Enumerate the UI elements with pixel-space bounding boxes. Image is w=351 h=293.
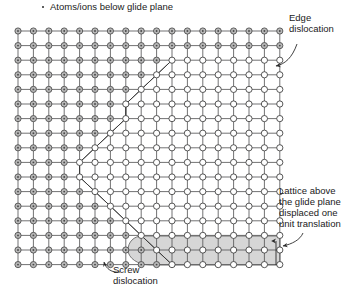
atom-above-glide-plane bbox=[261, 218, 267, 224]
atom-above-glide-plane bbox=[154, 72, 160, 78]
atom-below-glide-plane bbox=[154, 57, 160, 63]
atom-below-glide-plane bbox=[15, 57, 21, 63]
atom-above-glide-plane bbox=[169, 159, 175, 165]
atom-below-glide-plane bbox=[46, 43, 52, 49]
atom-below-glide-plane bbox=[77, 247, 83, 253]
atom-above-glide-plane bbox=[261, 130, 267, 136]
atom-below-glide-plane bbox=[46, 247, 52, 253]
atom-above-glide-plane bbox=[215, 218, 221, 224]
atom-above-glide-plane bbox=[231, 116, 237, 122]
atom-above-glide-plane bbox=[154, 203, 160, 209]
atom-above-glide-plane bbox=[246, 189, 252, 195]
atom-below-glide-plane bbox=[77, 145, 83, 151]
atom-below-glide-plane bbox=[30, 145, 36, 151]
atom-below-glide-plane bbox=[92, 43, 98, 49]
atom-below-glide-plane bbox=[30, 116, 36, 122]
atom-below-glide-plane bbox=[107, 72, 113, 78]
atom-above-glide-plane bbox=[277, 86, 283, 92]
atom-above-glide-plane bbox=[184, 116, 190, 122]
atom-below-glide-plane bbox=[92, 218, 98, 224]
atom-below-glide-plane bbox=[107, 247, 113, 253]
atom-above-glide-plane bbox=[107, 203, 113, 209]
atom-above-glide-plane bbox=[215, 189, 221, 195]
atom-above-glide-plane bbox=[184, 159, 190, 165]
atom-below-glide-plane bbox=[107, 28, 113, 34]
atom-below-glide-plane bbox=[46, 116, 52, 122]
atom-above-glide-plane bbox=[231, 159, 237, 165]
atom-above-glide-plane bbox=[277, 159, 283, 165]
atom-below-glide-plane bbox=[61, 72, 67, 78]
atom-below-glide-plane bbox=[46, 174, 52, 180]
atom-above-glide-plane bbox=[169, 247, 175, 253]
atom-above-glide-plane bbox=[215, 145, 221, 151]
atom-above-glide-plane bbox=[215, 101, 221, 107]
atom-above-glide-plane bbox=[261, 174, 267, 180]
atom-above-glide-plane bbox=[154, 145, 160, 151]
atom-above-glide-plane bbox=[231, 232, 237, 238]
atom-above-glide-plane bbox=[169, 86, 175, 92]
atom-above-glide-plane bbox=[231, 247, 237, 253]
atom-below-glide-plane bbox=[15, 203, 21, 209]
atom-below-glide-plane bbox=[246, 43, 252, 49]
atom-above-glide-plane bbox=[154, 116, 160, 122]
lattice-diagram-svg bbox=[0, 0, 351, 293]
atom-below-glide-plane bbox=[92, 130, 98, 136]
atom-below-glide-plane bbox=[138, 43, 144, 49]
atom-above-glide-plane bbox=[184, 72, 190, 78]
atom-above-glide-plane bbox=[138, 130, 144, 136]
atom-above-glide-plane bbox=[184, 232, 190, 238]
atom-below-glide-plane bbox=[169, 43, 175, 49]
atom-above-glide-plane bbox=[154, 130, 160, 136]
atom-below-glide-plane bbox=[30, 28, 36, 34]
atom-below-glide-plane bbox=[30, 130, 36, 136]
atom-above-glide-plane bbox=[261, 72, 267, 78]
atom-above-glide-plane bbox=[138, 174, 144, 180]
atom-above-glide-plane bbox=[184, 262, 190, 268]
atom-above-glide-plane bbox=[261, 189, 267, 195]
lattice-translation-arrow bbox=[283, 233, 303, 246]
atom-above-glide-plane bbox=[107, 159, 113, 165]
atom-below-glide-plane bbox=[77, 218, 83, 224]
atom-below-glide-plane bbox=[261, 28, 267, 34]
atom-below-glide-plane bbox=[61, 101, 67, 107]
atom-below-glide-plane bbox=[92, 28, 98, 34]
atom-below-glide-plane bbox=[107, 86, 113, 92]
atom-above-glide-plane bbox=[261, 86, 267, 92]
atom-above-glide-plane bbox=[215, 130, 221, 136]
atom-above-glide-plane bbox=[200, 232, 206, 238]
atom-below-glide-plane bbox=[46, 72, 52, 78]
atom-below-glide-plane bbox=[107, 43, 113, 49]
atom-below-glide-plane bbox=[46, 262, 52, 268]
atom-above-glide-plane bbox=[154, 86, 160, 92]
atom-below-glide-plane bbox=[61, 145, 67, 151]
caption-atoms-below-glide-plane: Atoms/ions below glide plane bbox=[50, 1, 173, 12]
atom-below-glide-plane bbox=[138, 57, 144, 63]
atom-below-glide-plane bbox=[92, 57, 98, 63]
atom-above-glide-plane bbox=[261, 145, 267, 151]
atom-below-glide-plane bbox=[277, 43, 283, 49]
atom-above-glide-plane bbox=[169, 174, 175, 180]
atom-above-glide-plane bbox=[200, 218, 206, 224]
atom-below-glide-plane bbox=[77, 28, 83, 34]
atom-above-glide-plane bbox=[215, 203, 221, 209]
atom-above-glide-plane bbox=[184, 218, 190, 224]
dislocation-loop-diagram: Atoms/ions below glide plane Edge disloc… bbox=[0, 0, 351, 293]
atom-above-glide-plane bbox=[200, 130, 206, 136]
atom-above-glide-plane bbox=[184, 86, 190, 92]
atom-above-glide-plane bbox=[184, 247, 190, 253]
atom-below-glide-plane bbox=[46, 86, 52, 92]
atom-above-glide-plane bbox=[231, 72, 237, 78]
atom-above-glide-plane bbox=[184, 145, 190, 151]
atom-above-glide-plane bbox=[231, 189, 237, 195]
atom-below-glide-plane bbox=[107, 218, 113, 224]
atom-above-glide-plane bbox=[169, 101, 175, 107]
atom-below-glide-plane bbox=[61, 174, 67, 180]
atom-below-glide-plane bbox=[30, 159, 36, 165]
atom-above-glide-plane bbox=[200, 57, 206, 63]
atom-above-glide-plane bbox=[246, 262, 252, 268]
atom-above-glide-plane bbox=[246, 130, 252, 136]
atom-below-glide-plane bbox=[61, 218, 67, 224]
label-edge-dislocation: Edge dislocation bbox=[289, 12, 334, 34]
atom-above-glide-plane bbox=[261, 262, 267, 268]
atom-below-glide-plane bbox=[30, 203, 36, 209]
